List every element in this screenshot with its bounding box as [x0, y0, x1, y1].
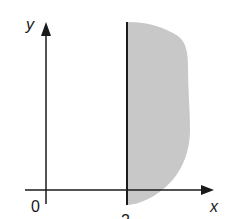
region-diagram: y x 0 2 [0, 0, 226, 219]
y-axis-label: y [25, 16, 35, 33]
x-axis-arrow-icon [201, 185, 214, 195]
x-axis-label: x [209, 198, 219, 215]
origin-label: 0 [31, 198, 40, 215]
x-value-label: 2 [121, 212, 130, 219]
y-axis-arrow-icon [41, 22, 51, 36]
shaded-region [127, 22, 190, 205]
